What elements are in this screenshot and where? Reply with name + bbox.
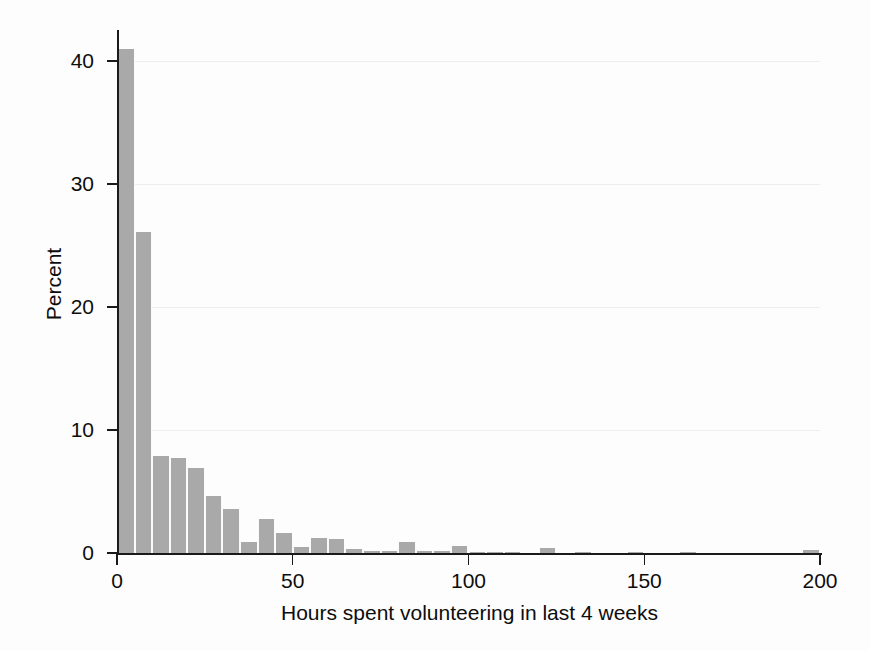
y-axis-tick (107, 183, 117, 184)
y-axis-tick (107, 60, 117, 61)
x-axis-tick (116, 554, 117, 565)
y-axis-line (117, 30, 119, 554)
y-axis-title: Percent (42, 214, 66, 354)
x-axis-line (117, 553, 822, 555)
histogram-bar (275, 533, 293, 553)
y-axis-tick-label: 10 (24, 419, 94, 440)
histogram-bar (170, 458, 188, 553)
x-axis-tick (292, 554, 293, 565)
histogram-bar (135, 232, 153, 553)
histogram-bar (451, 546, 469, 553)
histogram-bar (205, 496, 223, 553)
histogram-bar (258, 519, 276, 553)
x-axis-tick-label: 0 (72, 569, 162, 593)
histogram-bar (222, 509, 240, 553)
y-axis-tick (107, 306, 117, 307)
histogram-bar (187, 468, 205, 553)
x-axis-tick (468, 554, 469, 565)
x-axis-tick-label: 100 (424, 569, 514, 593)
histogram-bar (117, 49, 135, 553)
y-axis-tick-label: 30 (24, 173, 94, 194)
histogram-bar (398, 542, 416, 553)
histogram-bar (328, 539, 346, 553)
y-axis-tick (107, 429, 117, 430)
plot-area (117, 30, 820, 553)
histogram-bar (240, 542, 258, 553)
y-axis-tick-label: 0 (24, 542, 94, 563)
x-axis-tick (819, 554, 820, 565)
x-axis-tick-label: 150 (599, 569, 689, 593)
histogram-bar (152, 456, 170, 553)
y-axis-tick-label: 40 (24, 50, 94, 71)
x-axis-tick-label: 50 (248, 569, 338, 593)
histogram-figure: 010203040 050100150200 Percent Hours spe… (0, 0, 870, 651)
histogram-bars (117, 30, 820, 553)
x-axis-title: Hours spent volunteering in last 4 weeks (117, 601, 822, 625)
x-axis-tick (644, 554, 645, 565)
histogram-bar (310, 538, 328, 553)
x-axis-tick-label: 200 (775, 569, 865, 593)
